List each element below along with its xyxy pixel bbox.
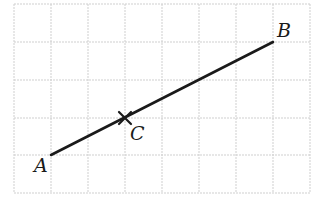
label-point-a: A — [32, 154, 48, 176]
label-point-c: C — [130, 122, 145, 144]
grid-diagram: A B C — [0, 0, 314, 205]
label-point-b: B — [276, 19, 291, 41]
